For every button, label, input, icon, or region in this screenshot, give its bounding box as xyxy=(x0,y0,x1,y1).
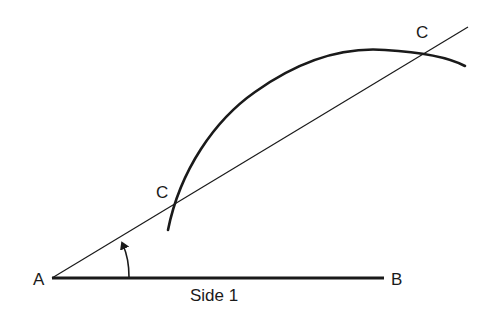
construction-arc xyxy=(168,50,465,230)
side-1-label: Side 1 xyxy=(190,287,238,304)
point-label-c-lower: C xyxy=(156,184,168,201)
angle-arrow-icon xyxy=(123,245,129,277)
ray-from-a xyxy=(52,27,468,278)
point-label-a: A xyxy=(33,271,44,288)
point-label-c-upper: C xyxy=(416,24,428,41)
point-label-b: B xyxy=(391,271,402,288)
construction-diagram xyxy=(0,0,496,319)
